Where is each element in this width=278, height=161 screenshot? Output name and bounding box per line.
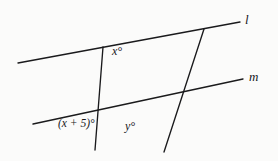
line-l-label: l — [245, 13, 249, 26]
geometry-canvas — [0, 0, 278, 161]
line-m-label: m — [249, 70, 258, 83]
angle-x-label: x° — [112, 45, 122, 57]
transversal-right — [164, 29, 204, 152]
geometry-figure: l m x° (x + 5)° y° — [0, 0, 278, 161]
angle-x-plus-5-label: (x + 5)° — [58, 118, 95, 130]
angle-y-label: y° — [125, 120, 135, 132]
l — [18, 22, 240, 63]
transversal-left — [95, 47, 103, 150]
